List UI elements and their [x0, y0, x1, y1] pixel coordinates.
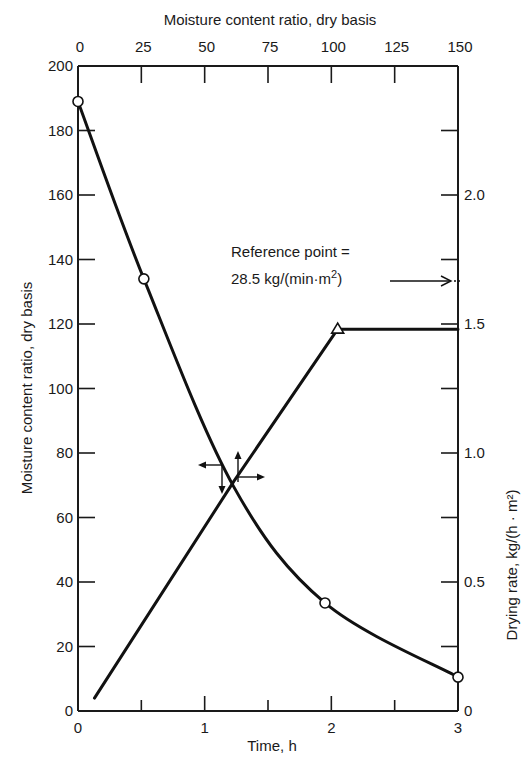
top-tick-label: 100 — [321, 38, 346, 55]
right-tick-label: 0 — [464, 702, 472, 719]
top-axis-title: Moisture content ratio, dry basis — [164, 11, 377, 28]
right-tick-label: 1.5 — [464, 315, 485, 332]
drying-rate-curve — [94, 329, 458, 698]
left-tick-label: 100 — [48, 380, 73, 397]
right-axis-ticks: 00.51.01.52.0 — [441, 131, 485, 720]
left-tick-label: 40 — [56, 573, 73, 590]
top-tick-label: 50 — [198, 38, 215, 55]
bottom-tick-label: 0 — [74, 719, 82, 736]
reference-label-line2: 28.5 kg/(min·m2) — [231, 268, 342, 287]
circle-marker — [139, 274, 149, 284]
left-tick-label: 180 — [48, 122, 73, 139]
reference-label-line1: Reference point = — [231, 243, 350, 260]
left-tick-label: 140 — [48, 251, 73, 268]
left-tick-label: 200 — [48, 57, 73, 74]
left-tick-label: 60 — [56, 509, 73, 526]
circle-marker — [73, 96, 83, 106]
top-tick-label: 75 — [262, 38, 279, 55]
top-tick-label: 125 — [384, 38, 409, 55]
data-markers — [73, 96, 463, 682]
plot-frame — [78, 66, 458, 711]
left-tick-label: 0 — [65, 702, 73, 719]
left-axis-title: Moisture content ratio, dry basis — [18, 282, 35, 495]
moisture-curve — [78, 101, 458, 677]
bottom-tick-label: 1 — [200, 719, 208, 736]
right-tick-label: 2.0 — [464, 186, 485, 203]
left-axis-ticks: 020406080100120140160180200 — [48, 57, 95, 719]
bottom-axis-ticks: 0123 — [74, 696, 462, 736]
top-axis-ticks: 0255075100125150 — [76, 38, 473, 83]
left-tick-label: 80 — [56, 444, 73, 461]
circle-marker — [320, 598, 330, 608]
drying-chart: 020406080100120140160180200 00.51.01.52.… — [0, 0, 531, 772]
right-tick-label: 0.5 — [464, 573, 485, 590]
circle-marker — [453, 672, 463, 682]
top-tick-label: 0 — [76, 38, 84, 55]
top-tick-label: 25 — [135, 38, 152, 55]
left-tick-label: 20 — [56, 638, 73, 655]
reference-arrow-icon — [390, 276, 462, 286]
bottom-tick-label: 2 — [327, 719, 335, 736]
top-tick-label: 150 — [447, 38, 472, 55]
left-tick-label: 160 — [48, 186, 73, 203]
bottom-axis-title: Time, h — [247, 737, 296, 754]
left-tick-label: 120 — [48, 315, 73, 332]
right-axis-title: Drying rate, kg/(h · m²) — [503, 490, 520, 641]
right-tick-label: 1.0 — [464, 444, 485, 461]
bottom-tick-label: 3 — [454, 719, 462, 736]
